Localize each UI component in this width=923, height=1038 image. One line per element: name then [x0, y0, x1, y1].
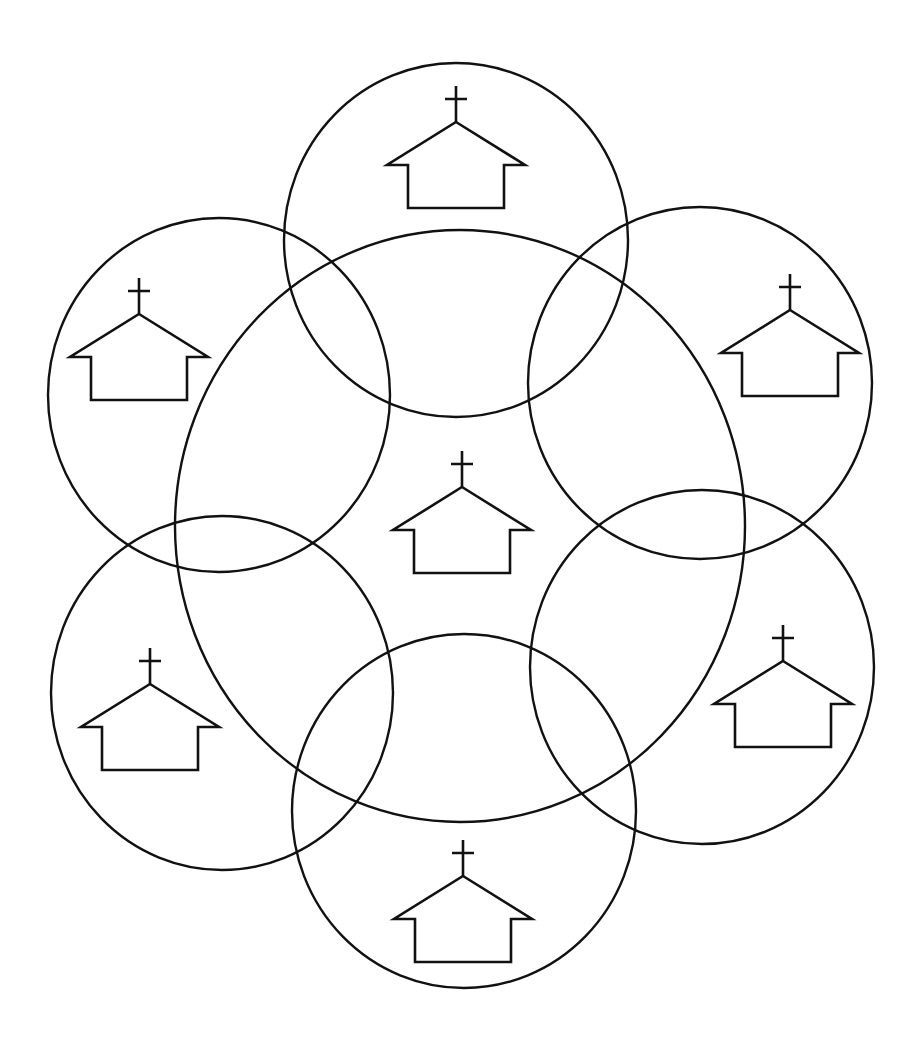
- cross-icon: [128, 278, 150, 314]
- cross-icon: [772, 625, 794, 661]
- house-outline-icon: [387, 122, 525, 208]
- house-outline-icon: [721, 310, 859, 396]
- upper-left-church-circle: [48, 218, 390, 572]
- house-outline-icon: [81, 684, 219, 770]
- church-icon: [70, 278, 208, 400]
- cross-icon: [452, 840, 474, 876]
- cross-icon: [779, 274, 801, 310]
- church-icon: [721, 274, 859, 396]
- central-church-circle: [175, 230, 745, 822]
- church-icon: [387, 86, 525, 208]
- upper-right-church-circle: [528, 207, 872, 559]
- lower-left-church-circle: [51, 516, 393, 870]
- cross-icon: [451, 451, 473, 487]
- circles-group: [48, 63, 874, 988]
- house-outline-icon: [70, 314, 208, 400]
- house-outline-icon: [393, 487, 531, 573]
- cross-icon: [139, 648, 161, 684]
- church-network-diagram: Seven overlapping circles, each containi…: [0, 0, 923, 1038]
- church-icon: [394, 840, 532, 962]
- bottom-church-circle: [292, 634, 636, 988]
- church-icon: [714, 625, 852, 747]
- lower-right-church-circle: [530, 490, 874, 844]
- diagram-canvas: [0, 0, 923, 1038]
- church-icon: [81, 648, 219, 770]
- cross-icon: [445, 86, 467, 122]
- house-outline-icon: [714, 661, 852, 747]
- church-icon: [393, 451, 531, 573]
- churches-group: [70, 86, 859, 962]
- house-outline-icon: [394, 876, 532, 962]
